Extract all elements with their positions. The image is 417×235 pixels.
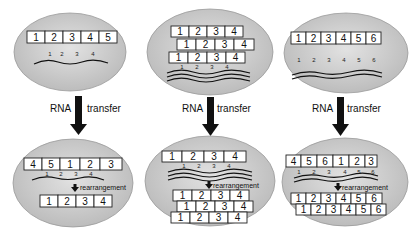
- genome-segment-row: 1 2 3 4: [171, 26, 243, 37]
- segment-label: 4: [30, 159, 36, 170]
- segment-label: 4: [231, 26, 237, 37]
- segment-label: 3: [326, 33, 332, 44]
- segment-label: 4: [235, 212, 241, 223]
- rearrangement-label: rearrangement: [80, 184, 126, 192]
- panel-1-top-cell: 1 2 3 4 5 1 2 3 4: [14, 13, 126, 91]
- genome-segment-row: 1 2 3 4: [177, 39, 254, 50]
- segment-label: 3: [211, 151, 217, 162]
- segment-label: 2: [199, 190, 205, 201]
- segment-label: 3: [331, 204, 337, 215]
- segment-label: 1: [178, 212, 184, 223]
- segment-label: 1: [296, 193, 302, 204]
- segment-label: 1: [301, 204, 307, 215]
- arrow-label-transfer: transfer: [347, 103, 382, 114]
- segment-label: 2: [195, 26, 201, 37]
- rearrangement-label: rearrangement: [342, 184, 388, 192]
- segment-label: 4: [241, 39, 247, 50]
- segment-label: 2: [316, 204, 322, 215]
- segment-label: 2: [354, 156, 360, 167]
- panel-1: 1 2 3 4 5 1 2 3 4 RNA transfer: [13, 13, 133, 227]
- segment-label: 6: [371, 33, 377, 44]
- segment-label: 4: [346, 204, 352, 215]
- rearrangement-marker: rearrangement: [71, 184, 126, 192]
- panel-2-bottom-cell: 1 2 3 4 1 2 3 4 rearrangement: [145, 136, 275, 226]
- panel-1-bottom-cell: 4 5 1 2 3 1 2 3 4 rearrangement: [13, 139, 133, 227]
- segment-label: 1: [33, 32, 39, 43]
- arrow-label-rna: RNA: [50, 103, 71, 114]
- segment-label: 2: [197, 212, 203, 223]
- segment-label: 4: [232, 151, 238, 162]
- segment-label: 4: [241, 201, 247, 212]
- segment-label: 3: [108, 159, 114, 170]
- segment-label: 3: [222, 39, 228, 50]
- segment-label: 2: [64, 196, 70, 207]
- segment-label: 4: [341, 193, 347, 204]
- rearranged-segment-row: 1 2 3 4: [40, 195, 112, 207]
- panel-3: 1 2 3 4 5 6 1 2 3 4 5 6 RNA: [282, 13, 408, 226]
- rearranged-segment-row: 1 2 3 4: [177, 201, 253, 212]
- segment-label: 3: [222, 201, 228, 212]
- transferred-segment-row: 1 2 3 4: [162, 151, 246, 162]
- rna-transfer-diagram: 1 2 3 4 5 1 2 3 4 RNA transfer: [0, 0, 417, 235]
- segment-label: 1: [169, 151, 175, 162]
- rna-transfer-arrow-3: RNA transfer: [312, 97, 382, 136]
- segment-label: 2: [51, 32, 57, 43]
- arrow-label-rna: RNA: [182, 103, 203, 114]
- segment-label: 3: [213, 26, 219, 37]
- segment-label: 3: [326, 193, 332, 204]
- rearrangement-marker: rearrangement: [334, 183, 388, 192]
- segment-label: 4: [291, 156, 297, 167]
- segment-label: 5: [361, 204, 367, 215]
- segment-label: 5: [48, 159, 54, 170]
- rna-transfer-arrow-2: RNA transfer: [182, 97, 252, 136]
- cell-ellipse: [284, 13, 408, 93]
- segment-label: 3: [82, 196, 88, 207]
- panel-3-bottom-cell: 4 5 6 1 2 3 1 2 3 4 5 6 re: [282, 138, 408, 226]
- segment-label: 4: [233, 52, 239, 63]
- panel-2: 1 2 3 4 1 2 3 4 1 2: [145, 9, 275, 226]
- cell-ellipse: [14, 13, 126, 91]
- rearrangement-label: rearrangement: [213, 182, 259, 190]
- segment-label: 3: [69, 32, 75, 43]
- segment-label: 6: [376, 204, 382, 215]
- segment-label: 1: [46, 196, 52, 207]
- segment-label: 2: [203, 39, 209, 50]
- arrow-label-transfer: transfer: [217, 103, 252, 114]
- segment-label: 6: [322, 156, 328, 167]
- segment-label: 4: [100, 196, 106, 207]
- segment-label: 1: [176, 52, 182, 63]
- arrow-label-rna: RNA: [312, 103, 333, 114]
- segment-label: 1: [296, 33, 302, 44]
- rearranged-segment-row: 1 2 3 4: [173, 190, 249, 201]
- segment-label: 5: [105, 32, 111, 43]
- segment-label: 1: [67, 159, 73, 170]
- rna-transfer-arrow-1: RNA transfer: [50, 96, 122, 135]
- rearranged-segment-row: 1 2 3 4 5 6: [291, 193, 382, 204]
- transferred-segment-row: 4 5 6 1 2 3: [286, 155, 377, 167]
- rearrangement-marker: rearrangement: [205, 181, 259, 190]
- segment-label: 1: [180, 190, 186, 201]
- segment-label: 2: [203, 201, 209, 212]
- segment-label: 5: [306, 156, 312, 167]
- segment-label: 5: [356, 33, 362, 44]
- segment-label: 2: [87, 159, 93, 170]
- segment-label: 5: [356, 193, 362, 204]
- transferred-segment-row: 4 5 1 2 3: [24, 158, 122, 170]
- segment-label: 1: [184, 201, 190, 212]
- segment-label: 3: [368, 156, 374, 167]
- arrow-down-icon: [70, 124, 87, 135]
- segment-label: 1: [184, 39, 190, 50]
- genome-segment-row: 1 2 3 4 5: [27, 31, 117, 43]
- segment-label: 2: [190, 151, 196, 162]
- cell-ellipse: [13, 139, 133, 227]
- panel-3-top-cell: 1 2 3 4 5 6 1 2 3 4 5 6: [284, 13, 408, 93]
- segment-label: 2: [195, 52, 201, 63]
- segment-label: 3: [218, 190, 224, 201]
- segment-label: 2: [311, 33, 317, 44]
- segment-label: 4: [341, 33, 347, 44]
- segment-label: 4: [87, 32, 93, 43]
- segment-label: 3: [216, 212, 222, 223]
- genome-segment-row: 1 2 3 4: [169, 52, 245, 63]
- genome-segment-row: 1 2 3 4 5 6: [291, 32, 381, 44]
- arrow-label-transfer: transfer: [87, 103, 122, 114]
